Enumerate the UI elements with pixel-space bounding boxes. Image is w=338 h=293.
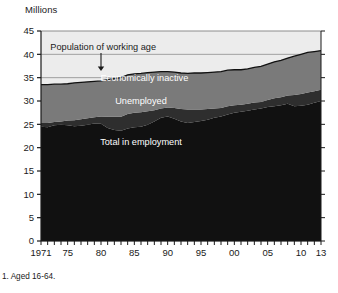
x-tick-label: 13 (316, 247, 327, 258)
y-tick-label: 30 (23, 95, 34, 106)
x-tick-label: 95 (196, 247, 207, 258)
x-tick-label: 10 (296, 247, 307, 258)
chart-figure: Millions 0510152025303540451971758085909… (0, 0, 338, 293)
stacked-area-chart: 0510152025303540451971758085909500051013… (0, 0, 338, 270)
x-tick-label: 90 (162, 247, 173, 258)
y-tick-label: 25 (23, 119, 34, 130)
y-tick-label: 15 (23, 165, 34, 176)
y-tick-label: 35 (23, 72, 34, 83)
x-tick-label: 05 (262, 247, 273, 258)
y-tick-label: 10 (23, 189, 34, 200)
x-tick-label: 00 (229, 247, 240, 258)
y-axis-title: Millions (25, 4, 57, 15)
x-tick-label: 85 (129, 247, 140, 258)
x-tick-label: 1971 (30, 247, 51, 258)
series-label-employment: Total in employment (100, 137, 182, 147)
y-tick-label: 40 (23, 49, 34, 60)
y-tick-label: 20 (23, 142, 34, 153)
annotation-label: Population of working age (50, 42, 156, 52)
y-tick-label: 0 (29, 235, 34, 246)
x-tick-label: 75 (62, 247, 73, 258)
series-label-inactive: Economically inactive (100, 73, 188, 83)
y-tick-label: 5 (29, 212, 34, 223)
x-tick-label: 80 (96, 247, 107, 258)
y-tick-label: 45 (23, 25, 34, 36)
chart-footnote: 1. Aged 16-64. (2, 272, 55, 281)
series-label-unemployed: Unemployed (115, 96, 167, 106)
